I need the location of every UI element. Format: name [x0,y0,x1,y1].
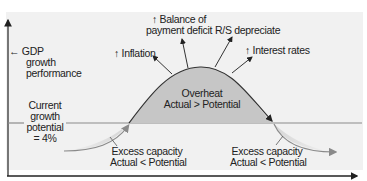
overheat-condition: Actual > Potential [160,99,244,110]
excess-capacity-right-label: Excess capacity Actual < Potential [230,146,304,168]
effect-interest-rates: ↑ Interest rates [245,45,310,56]
growth-potential-line: = 4% [24,133,66,144]
excess-left-condition: Actual < Potential [110,157,184,168]
effect-balance-of-payment: ↑ Balance of payment deficit [146,14,212,36]
effect-inflation: ↑ Inflation [114,48,156,59]
effect-rs-depreciate: R/S depreciate [215,25,280,36]
overheat-label: Overheat Actual > Potential [160,88,244,110]
excess-right-condition: Actual < Potential [230,157,304,168]
y-axis-label: ← GDP growth performance [9,46,82,79]
effect-balance-line: payment deficit [146,25,212,36]
growth-potential-label: Current growth potential = 4% [24,100,66,144]
y-axis-label-line: performance [9,68,82,79]
excess-capacity-left-label: Excess capacity Actual < Potential [110,146,184,168]
